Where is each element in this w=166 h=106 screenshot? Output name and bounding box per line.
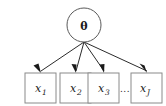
x2-subscript: 2 bbox=[76, 88, 82, 97]
arrowhead-x3-icon bbox=[100, 64, 105, 73]
x3-label: x bbox=[98, 82, 105, 95]
arrowhead-x2-icon bbox=[72, 64, 77, 73]
xJ-label: x bbox=[140, 82, 147, 95]
edge-group bbox=[41, 42, 147, 71]
latent-node-theta: θ bbox=[67, 8, 101, 42]
graphical-model-diagram: θ x 1 x 2 x 3 ... x J bbox=[0, 0, 166, 106]
x2-label: x bbox=[70, 82, 77, 95]
x3-subscript: 3 bbox=[105, 88, 110, 97]
x1-label: x bbox=[35, 82, 42, 95]
ellipsis-label: ... bbox=[120, 84, 130, 94]
arrowhead-x1-icon bbox=[34, 64, 42, 74]
theta-label: θ bbox=[80, 20, 87, 33]
observed-node-x3: x 3 bbox=[88, 73, 119, 103]
x1-subscript: 1 bbox=[42, 88, 47, 97]
observed-node-xJ: x J bbox=[131, 73, 162, 103]
observed-node-x2: x 2 bbox=[60, 73, 91, 103]
diagram-canvas: θ x 1 x 2 x 3 ... x J bbox=[0, 0, 166, 106]
observed-node-x1: x 1 bbox=[25, 73, 56, 103]
